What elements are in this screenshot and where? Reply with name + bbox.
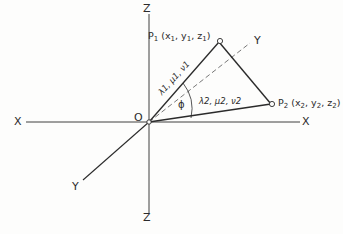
point-label-p2: P2 (x2, y2, z2) [278, 98, 340, 108]
p2-coord-x: x [295, 97, 301, 108]
origin-label: O [134, 112, 143, 123]
axis-label-x-positive: X [302, 116, 310, 127]
point-p1-subscript: 1 [154, 35, 158, 43]
line-o-p2 [149, 104, 271, 122]
p1-coord-y: , y [175, 30, 187, 41]
y-axis-negative-line [83, 122, 149, 180]
p1-coord-y-sub: 1 [187, 35, 191, 43]
angle-phi-label: ϕ [178, 100, 185, 110]
p2-coord-y-sub: 2 [317, 102, 321, 110]
point-p2-subscript: 2 [284, 102, 288, 110]
vertex-marker-p2 [269, 101, 274, 106]
direction-cosines-label-line-2: λ2, μ2, ν2 [199, 97, 241, 106]
axis-label-y-positive: Y [254, 35, 261, 46]
axis-label-z-negative: Z [143, 212, 151, 223]
point-p2-name: P [278, 97, 284, 108]
axis-label-y-negative: Y [72, 181, 79, 192]
diagram-canvas: X X Z Z Y Y O P1 (x1, y1, z1) P2 (x2, y2… [0, 0, 343, 234]
p1-coord-z: , z [191, 30, 202, 41]
p1-coord-z-sub: 1 [202, 35, 206, 43]
p2-coord-z-sub: 2 [332, 102, 336, 110]
line-o-p1 [149, 42, 219, 122]
axis-label-x-negative: X [14, 116, 22, 127]
axis-label-z-positive: Z [143, 3, 151, 14]
p1-coord-x-sub: 1 [171, 35, 175, 43]
point-label-p1: P1 (x1, y1, z1) [148, 31, 210, 41]
point-p1-name: P [148, 30, 154, 41]
p2-coord-z: , z [321, 97, 332, 108]
p1-coord-x: x [165, 30, 171, 41]
p2-coord-x-sub: 2 [301, 102, 305, 110]
line-p1-p2 [219, 42, 271, 104]
vertex-marker-origin [147, 120, 151, 124]
p2-coord-y: , y [305, 97, 317, 108]
vertex-marker-p1 [217, 38, 222, 43]
